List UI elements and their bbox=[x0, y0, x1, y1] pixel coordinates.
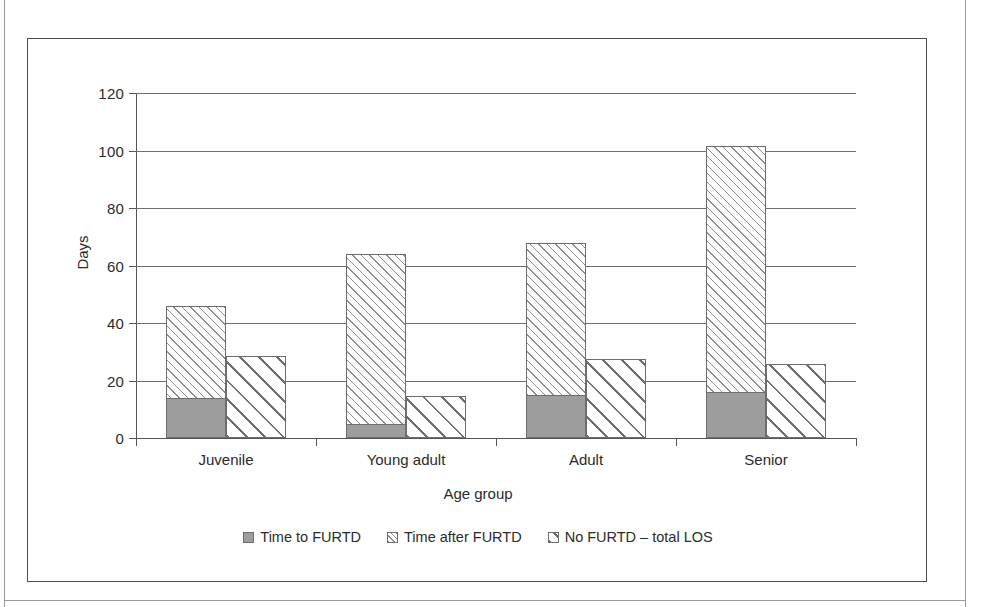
bar-segment-time-to-furtd bbox=[706, 392, 766, 438]
bar-no-furtd-total-los bbox=[406, 396, 466, 438]
y-axis-title: Days bbox=[74, 193, 91, 313]
solid-gray-icon bbox=[243, 532, 254, 543]
stacked-bar-furtd bbox=[706, 146, 766, 438]
y-tick-label-0: 0 bbox=[115, 430, 124, 447]
bar-segment-time-to-furtd bbox=[526, 395, 586, 438]
x-axis-ticks bbox=[136, 438, 857, 447]
bar-no-furtd-total-los bbox=[766, 364, 826, 438]
y-tick-label-20: 20 bbox=[107, 372, 124, 389]
bar-group-young-adult bbox=[316, 93, 496, 438]
x-tick-2 bbox=[496, 438, 497, 446]
legend-item-1: Time after FURTD bbox=[387, 529, 522, 545]
plot-area bbox=[136, 93, 856, 438]
bar-no-furtd-total-los bbox=[586, 359, 646, 438]
coarse-hatch-icon bbox=[548, 532, 559, 543]
chart-legend: Time to FURTDTime after FURTDNo FURTD – … bbox=[28, 529, 928, 545]
x-tick-1 bbox=[316, 438, 317, 446]
fine-hatch-icon bbox=[387, 532, 398, 543]
x-tick-label-senior: Senior bbox=[744, 451, 787, 468]
stacked-bar-furtd bbox=[166, 306, 226, 438]
y-tick-label-100: 100 bbox=[98, 142, 124, 159]
y-tick-label-60: 60 bbox=[107, 257, 124, 274]
x-tick-3 bbox=[676, 438, 677, 446]
legend-label: No FURTD – total LOS bbox=[565, 529, 713, 545]
bar-group-senior bbox=[676, 93, 856, 438]
chart-canvas: 020406080100120 Days JuvenileYoung adult… bbox=[28, 39, 928, 583]
bar-no-furtd-total-los bbox=[226, 356, 286, 438]
bar-segment-time-to-furtd bbox=[166, 398, 226, 438]
y-tick-label-80: 80 bbox=[107, 200, 124, 217]
page-column-rule-right bbox=[965, 0, 966, 607]
legend-item-0: Time to FURTD bbox=[243, 529, 361, 545]
x-tick-label-adult: Adult bbox=[569, 451, 603, 468]
x-tick-0 bbox=[136, 438, 137, 446]
figure-frame: 020406080100120 Days JuvenileYoung adult… bbox=[27, 38, 927, 582]
stacked-bar-furtd bbox=[526, 243, 586, 439]
bar-segment-time-to-furtd bbox=[346, 424, 406, 438]
legend-label: Time to FURTD bbox=[260, 529, 361, 545]
x-tick-end bbox=[856, 438, 857, 446]
y-tick-label-120: 120 bbox=[98, 85, 124, 102]
legend-item-2: No FURTD – total LOS bbox=[548, 529, 713, 545]
x-tick-label-juvenile: Juvenile bbox=[198, 451, 253, 468]
y-tick-label-40: 40 bbox=[107, 315, 124, 332]
page-rule-bottom bbox=[4, 600, 966, 601]
x-tick-label-young-adult: Young adult bbox=[367, 451, 446, 468]
legend-label: Time after FURTD bbox=[404, 529, 522, 545]
x-axis-tick-labels: JuvenileYoung adultAdultSenior bbox=[136, 451, 856, 479]
x-axis-title: Age group bbox=[28, 485, 928, 502]
bar-segment-time-after-furtd bbox=[346, 254, 406, 438]
bar-group-adult bbox=[496, 93, 676, 438]
stacked-bar-furtd bbox=[346, 254, 406, 438]
bar-group-juvenile bbox=[136, 93, 316, 438]
page-column-rule-left bbox=[4, 0, 5, 607]
